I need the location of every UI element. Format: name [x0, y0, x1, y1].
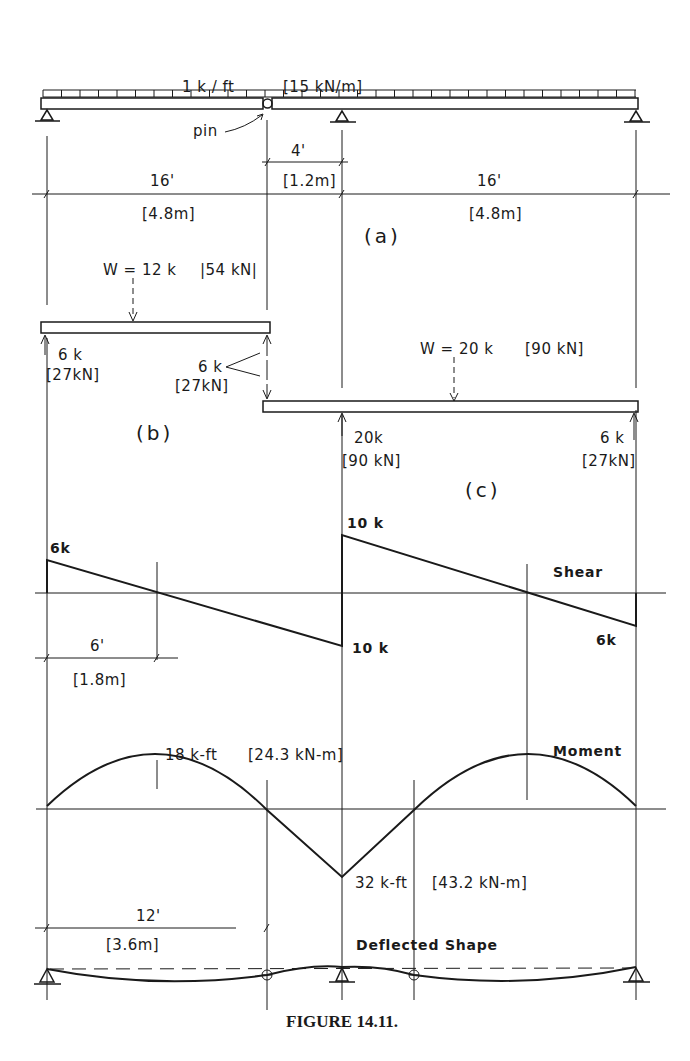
part-c-free-body: W = 20 k [90 kN] 20k [90 kN] 6 k [27kN] …	[263, 340, 638, 502]
moment-title: Moment	[553, 743, 622, 759]
moment-pos-max: 18 k-ft	[165, 746, 217, 764]
part-c-label: (c)	[465, 478, 501, 502]
distributed-load-icon	[43, 90, 636, 97]
shear-zero-dim-si: [1.8m]	[73, 671, 126, 689]
moment-neg-max-si: [43.2 kN-m]	[432, 874, 527, 892]
load-c-si: [90 kN]	[525, 340, 584, 358]
moment-diagram: 18 k-ft [24.3 kN-m] Moment 32 k-ft [43.2…	[35, 743, 666, 1010]
reaction-left: 6 k	[58, 346, 83, 364]
shear-mid-bottom-value: 10 k	[352, 640, 389, 656]
shear-left-value: 6k	[50, 540, 71, 556]
reaction-mid-si: [90 kN]	[342, 452, 401, 470]
reaction-left-si: [27kN]	[46, 366, 100, 384]
moment-pos-max-si: [24.3 kN-m]	[248, 746, 343, 764]
support-left-icon	[35, 110, 60, 121]
shear-curve	[47, 535, 636, 646]
reaction-pin: 6 k	[198, 358, 223, 376]
moment-neg-max: 32 k-ft	[355, 874, 407, 892]
shear-title: Shear	[553, 564, 603, 580]
dim-span-left: 16'	[150, 172, 175, 190]
part-a-loaded-beam: 1 k / ft [15 kN/m] pin	[32, 78, 670, 248]
dim-span-right-si: [4.8m]	[469, 205, 522, 223]
beam-right-segment	[272, 98, 638, 109]
load-label: 1 k / ft	[182, 78, 235, 96]
undeflected-reference-line	[50, 968, 630, 969]
part-b-free-body: W = 12 k |54 kN| 6 k [27kN] 6 k [27kN] (…	[41, 261, 271, 445]
pin-arrow-icon	[225, 115, 262, 132]
load-label-si: [15 kN/m]	[283, 78, 363, 96]
part-b-label: (b)	[136, 421, 173, 445]
dim-span-right: 16'	[477, 172, 502, 190]
inflection-dim-si: [3.6m]	[106, 936, 159, 954]
reaction-right-si: [27kN]	[582, 452, 636, 470]
dimension-lines	[32, 158, 670, 198]
reaction-mid: 20k	[354, 429, 383, 447]
figure-caption: FIGURE 14.11.	[286, 1012, 398, 1031]
load-b-si: |54 kN|	[200, 261, 257, 279]
support-right-icon	[624, 111, 650, 122]
dim-overhang-si: [1.2m]	[283, 172, 336, 190]
load-c: W = 20 k	[420, 340, 493, 358]
shear-zero-dim: 6'	[90, 637, 105, 655]
reaction-right: 6 k	[600, 429, 625, 447]
reaction-pin-si: [27kN]	[175, 377, 229, 395]
dim-span-left-si: [4.8m]	[142, 205, 195, 223]
pin-icon	[263, 99, 272, 108]
deflected-title: Deflected Shape	[356, 937, 498, 953]
load-b: W = 12 k	[103, 261, 176, 279]
shear-mid-top-value: 10 k	[347, 515, 384, 531]
part-a-label: (a)	[364, 224, 401, 248]
inflection-dim: 12'	[136, 907, 161, 925]
shear-right-value: 6k	[596, 632, 617, 648]
pin-label: pin	[193, 122, 218, 140]
beam-left-segment	[41, 98, 263, 109]
beam-c	[263, 401, 638, 412]
support-middle-icon	[330, 111, 356, 122]
dim-overhang: 4'	[291, 142, 306, 160]
beam-analysis-figure: 1 k / ft [15 kN/m] pin	[0, 0, 690, 1061]
beam-b	[41, 322, 270, 333]
